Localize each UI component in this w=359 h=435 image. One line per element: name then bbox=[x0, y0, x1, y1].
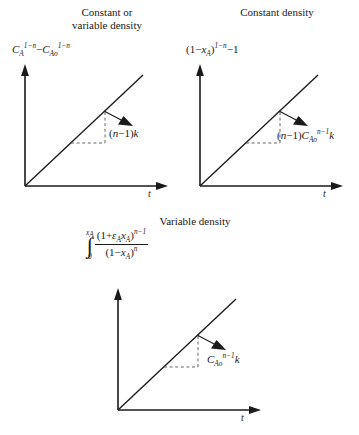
panel3-graphic bbox=[0, 0, 359, 435]
panel3-x-axis-label: t bbox=[241, 412, 244, 423]
panel3-slope-label: CAon−1k bbox=[207, 351, 240, 368]
panel3-slope-pointer-arrowhead bbox=[211, 340, 226, 350]
s3-k: k bbox=[235, 353, 240, 365]
s3-sub-Ao: Ao bbox=[214, 359, 222, 368]
panel3-x-axis-arrowhead bbox=[249, 406, 261, 414]
s3-exp-n-1: n−1 bbox=[222, 351, 234, 360]
panel3-y-axis-arrowhead bbox=[114, 288, 122, 300]
